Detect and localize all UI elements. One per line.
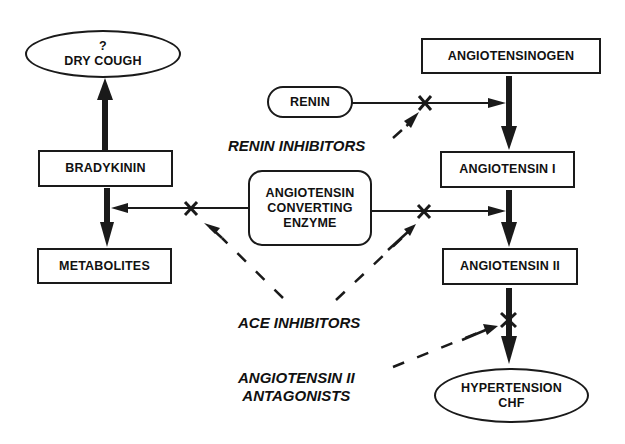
node-renin: RENIN bbox=[267, 86, 353, 118]
at2-antagonists-line2: ANTAGONISTS bbox=[238, 387, 355, 405]
at2-antagonists-line1: ANGIOTENSIN II bbox=[238, 369, 355, 387]
ace-label-line2: CONVERTING bbox=[267, 201, 352, 216]
edge-bradykinin-to-metabolites bbox=[100, 188, 114, 247]
dry-cough-label: DRY COUGH bbox=[64, 54, 142, 69]
dry-cough-question-mark: ? bbox=[99, 39, 107, 54]
edge-bradykinin-to-dry-cough bbox=[97, 78, 113, 150]
angiotensin-2-label: ANGIOTENSIN II bbox=[460, 259, 560, 274]
node-angiotensin-converting-enzyme: ANGIOTENSIN CONVERTING ENZYME bbox=[248, 170, 372, 246]
edge-ace-to-angiotensin bbox=[371, 206, 506, 216]
label-angiotensin-2-antagonists: ANGIOTENSIN II ANTAGONISTS bbox=[238, 369, 355, 405]
bradykinin-label: BRADYKININ bbox=[65, 161, 145, 176]
node-angiotensin-2: ANGIOTENSIN II bbox=[442, 248, 578, 285]
node-angiotensin-1: ANGIOTENSIN I bbox=[440, 151, 575, 188]
ace-label-line1: ANGIOTENSIN bbox=[265, 186, 354, 201]
edge-ace-to-bradykinin bbox=[111, 203, 248, 213]
edge-at2-antagonists-arrow bbox=[393, 324, 498, 367]
angiotensinogen-label: ANGIOTENSINOGEN bbox=[448, 49, 575, 64]
node-dry-cough: ? DRY COUGH bbox=[25, 30, 181, 78]
node-angiotensinogen: ANGIOTENSINOGEN bbox=[421, 38, 601, 74]
metabolites-label: METABOLITES bbox=[59, 259, 150, 274]
node-metabolites: METABOLITES bbox=[37, 248, 172, 284]
hypertension-label: HYPERTENSION bbox=[461, 381, 562, 396]
angiotensin-1-label: ANGIOTENSIN I bbox=[459, 162, 555, 177]
chf-label: CHF bbox=[498, 396, 524, 411]
ace-label-line3: ENZYME bbox=[283, 216, 336, 231]
label-ace-inhibitors: ACE INHIBITORS bbox=[238, 314, 360, 332]
label-renin-inhibitors: RENIN INHIBITORS bbox=[228, 137, 365, 155]
node-bradykinin: BRADYKININ bbox=[38, 150, 173, 187]
node-hypertension-chf: HYPERTENSION CHF bbox=[434, 368, 589, 423]
edge-angiotensinogen-to-angiotensin-1 bbox=[501, 76, 517, 150]
edge-renin-inhibitors-arrow bbox=[393, 112, 419, 138]
edge-angiotensin-1-to-angiotensin-2 bbox=[501, 190, 517, 247]
renin-label: RENIN bbox=[290, 95, 330, 110]
